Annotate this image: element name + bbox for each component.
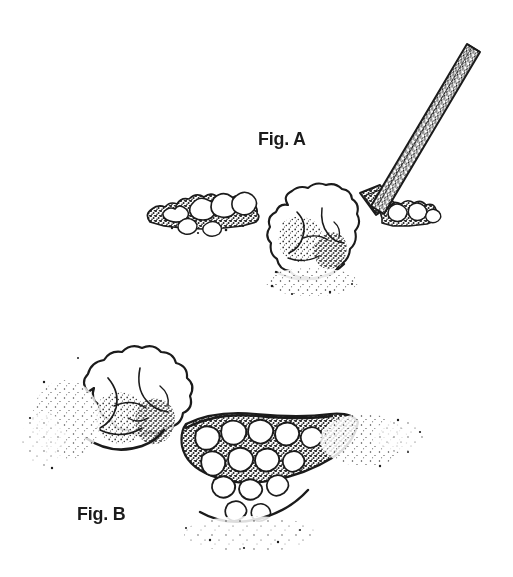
figure-a-label: Fig. A [258, 128, 306, 150]
illustration-page: A big rock can't be budged [0, 0, 513, 577]
dirt-scatter-b-bottom [184, 516, 316, 552]
figure-b-label: Fig. B [77, 503, 125, 525]
rock-illustration [0, 0, 513, 577]
boulder-base-shadow-a [266, 268, 358, 296]
illustration-svg [0, 0, 513, 577]
